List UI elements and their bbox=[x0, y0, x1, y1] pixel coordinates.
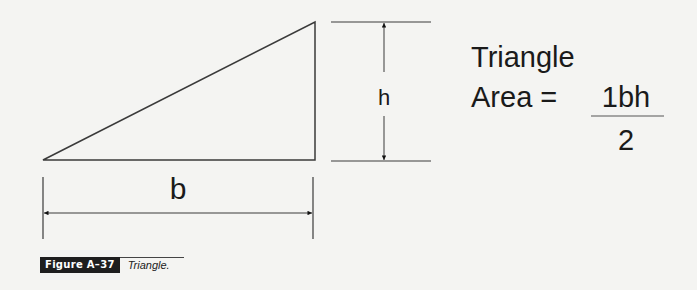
formula-numerator: 1bh bbox=[602, 81, 650, 113]
triangle-diagram: h b Triangle Area = 1bh 2 bbox=[0, 0, 697, 290]
figure-number-label: Figure A–37 bbox=[40, 257, 120, 273]
figure-title: Triangle. bbox=[128, 259, 170, 271]
height-label: h bbox=[378, 85, 390, 110]
formula-title: Triangle bbox=[471, 41, 575, 73]
figure-caption: Figure A–37 Triangle. bbox=[40, 257, 170, 273]
formula-lhs: Area = bbox=[471, 81, 557, 113]
base-label: b bbox=[170, 172, 187, 205]
formula-denominator: 2 bbox=[618, 124, 634, 156]
triangle-shape bbox=[43, 22, 315, 160]
